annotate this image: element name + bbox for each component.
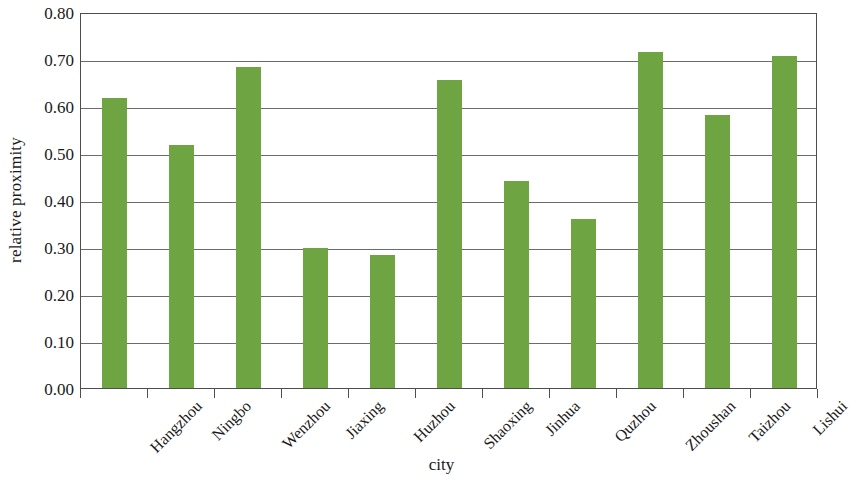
x-axis-title-text: city [429, 455, 455, 474]
x-axis-tick-label: Hangzhou [147, 398, 205, 456]
x-axis-tick-label: Ningbo [209, 398, 254, 443]
x-axis-tick-label: Taizhou [746, 398, 794, 446]
x-axis-tick-label: Zhoushan [682, 398, 738, 454]
x-axis-tick-label: Jinhua [542, 398, 583, 439]
x-axis-title: city [0, 455, 819, 475]
x-axis-tick-label: Shaoxing [480, 398, 534, 452]
x-axis-tick-label: Lishui [809, 398, 849, 438]
x-axis-tick-label: Quzhou [611, 398, 658, 445]
x-axis-tick-label: Huzhou [410, 398, 457, 445]
x-axis-tick-label: Wenzhou [279, 398, 333, 452]
x-axis-tick-label: Jiaxing [342, 398, 386, 442]
